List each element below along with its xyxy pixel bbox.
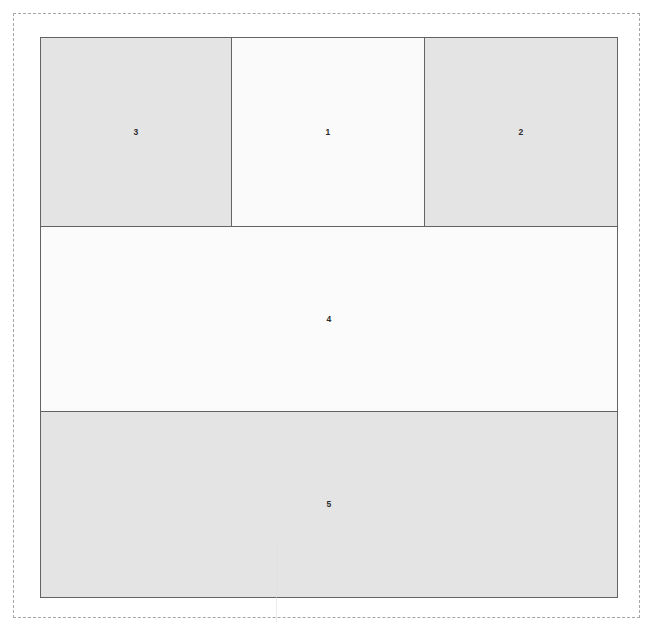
region-label-5: 5 [327,500,332,509]
region-label-4: 4 [327,315,332,324]
layout-canvas: 3 1 2 4 5 [0,0,657,636]
region-block-3[interactable]: 3 [40,37,232,227]
region-label-1: 1 [326,128,331,137]
region-block-2[interactable]: 2 [424,37,618,227]
region-label-3: 3 [134,128,139,137]
region-block-1[interactable]: 1 [231,37,425,227]
region-block-5[interactable]: 5 [40,411,618,598]
region-block-4[interactable]: 4 [40,226,618,412]
region-label-2: 2 [519,128,524,137]
region-grid: 3 1 2 4 5 [40,37,618,598]
